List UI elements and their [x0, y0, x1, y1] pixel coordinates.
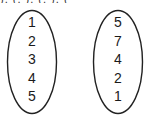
set-element: 4: [92, 50, 144, 69]
set-element: 2: [6, 32, 58, 51]
set-element: 3: [6, 50, 58, 69]
set-left-elements: 1 2 3 4 5: [6, 13, 58, 106]
set-left-ellipse: 1 2 3 4 5: [6, 9, 58, 115]
set-element: 5: [92, 13, 144, 32]
set-element: 5: [6, 87, 58, 106]
set-element: 2: [92, 69, 144, 88]
set-element: 7: [92, 32, 144, 51]
set-element: 1: [6, 13, 58, 32]
cropped-top-text: ), (, ), (, ), (: [0, 0, 148, 3]
set-element: 4: [6, 69, 58, 88]
set-right-ellipse: 5 7 4 2 1: [92, 9, 144, 115]
set-element: 1: [92, 87, 144, 106]
set-right-elements: 5 7 4 2 1: [92, 13, 144, 106]
